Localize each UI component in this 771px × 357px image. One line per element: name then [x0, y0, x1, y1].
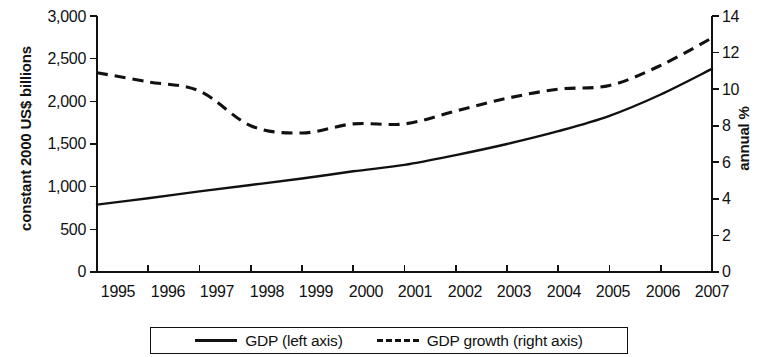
left-axis-tick-marks	[90, 16, 97, 272]
legend-entry-gdp: GDP (left axis)	[195, 332, 343, 350]
x-axis-tick-marks	[97, 265, 712, 272]
legend-label-gdp: GDP (left axis)	[245, 332, 343, 350]
chart-figure: constant 2000 US$ billions annual % 3,00…	[0, 0, 771, 357]
legend-dashed-line-icon	[377, 339, 419, 342]
series-line-gdp-growth	[97, 38, 712, 133]
axis-spines	[97, 16, 712, 272]
legend-entry-gdp-growth: GDP growth (right axis)	[377, 332, 583, 350]
plot-area	[0, 0, 771, 357]
chart-legend: GDP (left axis) GDP growth (right axis)	[150, 327, 628, 354]
legend-solid-line-icon	[195, 339, 237, 342]
right-axis-tick-marks	[712, 16, 719, 272]
legend-label-gdp-growth: GDP growth (right axis)	[427, 332, 583, 350]
series-line-gdp	[97, 69, 712, 205]
